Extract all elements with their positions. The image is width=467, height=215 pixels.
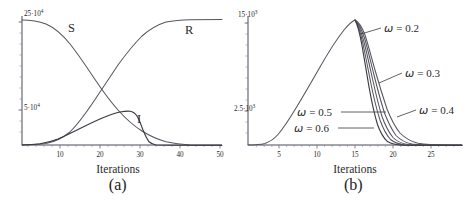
y-ticks-a (19, 22, 23, 132)
x-tick-label-b-0: 5 (277, 151, 281, 159)
leader-line-omega-02 (361, 28, 381, 34)
curve-omega-02 (248, 20, 462, 145)
series-label-omega-03: ω= 0.3 (405, 67, 440, 80)
x-tick-label-a-4: 50 (216, 151, 224, 159)
x-tick-label-a-2: 30 (136, 151, 144, 159)
plot-area-b: 15·103 2.5·103 (234, 0, 467, 178)
x-tick-label-a-1: 20 (96, 151, 104, 159)
series-label-omega-06: ω= 0.6 (294, 122, 329, 135)
chart-a-svg: 25·104 5·104 (0, 0, 234, 178)
panel-b: 15·103 2.5·103 (234, 0, 467, 215)
x-tick-label-a-0: 10 (56, 151, 64, 159)
plot-area-a: 25·104 5·104 (0, 0, 234, 178)
x-tick-label-b-4: 25 (427, 151, 435, 159)
series-label-omega-02: ω= 0.2 (384, 22, 419, 35)
x-tick-label-b-3: 20 (389, 151, 397, 159)
leader-line-omega-03 (379, 73, 402, 83)
leader-line-omega-04 (397, 110, 416, 117)
y-ticks-b (244, 23, 248, 133)
y-tick-label-a-0: 25·104 (24, 8, 44, 18)
y-tick-label-b-0: 15·103 (238, 9, 258, 19)
curve-s (22, 20, 222, 145)
x-axis-title-a: Iterations (96, 163, 140, 175)
figure-container: 25·104 5·104 (0, 0, 467, 215)
x-tick-label-b-2: 15 (351, 151, 359, 159)
curve-i (22, 111, 222, 145)
panel-a-caption: (a) (0, 176, 234, 194)
x-tick-label-b-1: 10 (313, 151, 321, 159)
panel-b-caption: (b) (234, 176, 467, 194)
curve-label-i: I (137, 112, 141, 126)
curve-label-s: S (68, 21, 75, 35)
x-axis-title-b: Iterations (333, 163, 377, 175)
curve-omega-05 (355, 20, 462, 145)
y-tick-label-b-1: 2.5·103 (234, 103, 256, 113)
series-label-omega-05: ω= 0.5 (297, 106, 332, 119)
y-tick-label-a-1: 5·104 (24, 102, 40, 112)
curve-r (22, 20, 222, 145)
curve-label-r: R (185, 23, 194, 37)
x-tick-label-a-3: 40 (176, 151, 184, 159)
panel-a: 25·104 5·104 (0, 0, 234, 215)
series-label-omega-04: ω= 0.4 (419, 104, 454, 117)
chart-b-svg: 15·103 2.5·103 (234, 0, 467, 178)
